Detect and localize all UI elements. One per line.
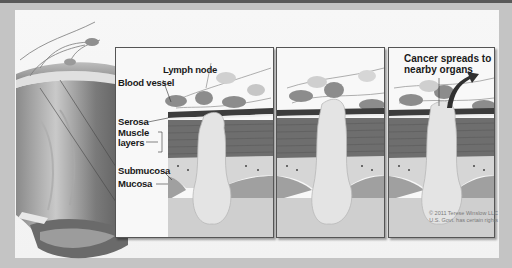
label-submucosa: Submucosa [118, 166, 170, 176]
lymph-node-shape [85, 38, 99, 46]
stage-panel-2 [276, 47, 385, 238]
copyright-line-2: U.S. Govt. has certain rights [400, 217, 498, 224]
callout-spread-line-2: nearby organs [404, 64, 473, 75]
colon-wall-cross-section [277, 48, 384, 237]
colon-wall-cross-section [389, 48, 494, 237]
stage-panel-1: Lymph node Blood vessel Serosa Muscle la… [115, 47, 274, 238]
copyright-notice: © 2011 Terese Winslow LLC U.S. Govt. has… [400, 210, 498, 224]
label-lymph-node: Lymph node [163, 65, 217, 75]
callout-spread-line-1: Cancer spreads to [404, 53, 491, 64]
label-serosa: Serosa [118, 117, 149, 127]
label-mucosa: Mucosa [118, 179, 152, 189]
copyright-line-1: © 2011 Terese Winslow LLC [400, 210, 498, 217]
label-blood-vessel: Blood vessel [118, 78, 174, 88]
label-muscle-layers-2: layers [118, 138, 144, 148]
